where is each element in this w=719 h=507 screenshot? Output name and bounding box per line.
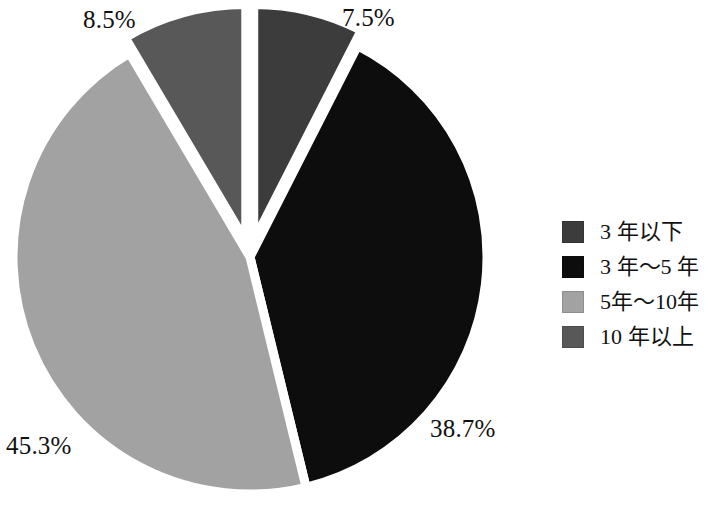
- legend-item-label: 10 年以上: [600, 326, 694, 348]
- legend-item-label: 3 年以下: [600, 221, 683, 243]
- chart-legend: 3 年以下 3 年～5 年 5年～10年 10 年以上: [562, 214, 717, 354]
- legend-item-label: 5年～10年: [600, 291, 699, 313]
- legend-swatch-icon: [562, 291, 584, 313]
- pie-slice-group: [13, 4, 487, 494]
- legend-swatch-icon: [562, 326, 584, 348]
- legend-swatch-icon: [562, 256, 584, 278]
- slice-data-label-5to10yrs: 45.3%: [6, 432, 72, 460]
- legend-item-label: 3 年～5 年: [600, 256, 699, 278]
- legend-item-under-3yrs: 3 年以下: [562, 214, 717, 249]
- slice-data-label-10yrs-plus: 8.5%: [83, 6, 136, 34]
- legend-item-3to5yrs: 3 年～5 年: [562, 249, 717, 284]
- legend-swatch-icon: [562, 221, 584, 243]
- slice-data-label-under-3yrs: 7.5%: [342, 4, 395, 32]
- legend-item-5to10yrs: 5年～10年: [562, 284, 717, 319]
- slice-data-label-3to5yrs: 38.7%: [430, 415, 496, 443]
- legend-item-10yrs-plus: 10 年以上: [562, 319, 717, 354]
- pie-chart: 8.5% 7.5% 38.7% 45.3% 3 年以下 3 年～5 年 5年～1…: [0, 0, 719, 507]
